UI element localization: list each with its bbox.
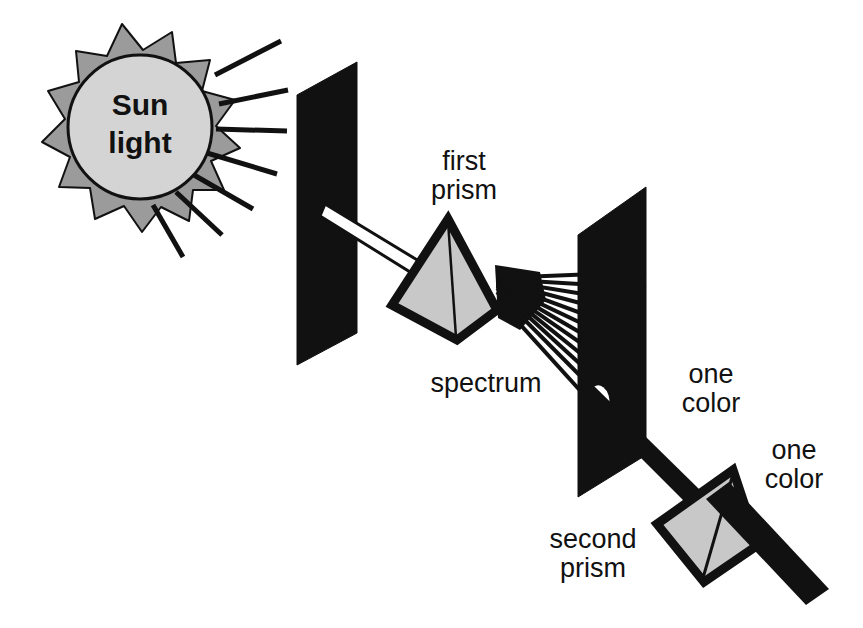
optics-diagram: Sun light <box>0 0 863 628</box>
spectrum-label: spectrum <box>430 368 541 398</box>
sun-ray-4 <box>207 153 277 174</box>
sun-ray-5 <box>194 175 253 209</box>
one-color-upper-label-line1: one <box>688 359 733 389</box>
second-prism-label-line2: prism <box>560 553 626 583</box>
first-prism-body <box>392 219 497 340</box>
one-color-upper-label-line2: color <box>682 388 741 418</box>
sun-label-line2: light <box>108 126 171 159</box>
one-color-lower-label-line1: one <box>771 435 816 465</box>
first-prism-label-line1: first <box>442 146 486 176</box>
second-prism-label-line1: second <box>549 524 636 554</box>
diagram-canvas: Sun light <box>0 0 863 628</box>
first-prism <box>392 219 497 340</box>
first-prism-label-line2: prism <box>431 175 497 205</box>
sun-ray-2 <box>219 90 288 104</box>
sun: Sun light <box>42 24 240 232</box>
one-color-lower-label-line2: color <box>765 464 824 494</box>
sun-label-line1: Sun <box>112 88 169 121</box>
sun-ray-3 <box>216 129 287 131</box>
sun-ray-1 <box>215 41 281 75</box>
